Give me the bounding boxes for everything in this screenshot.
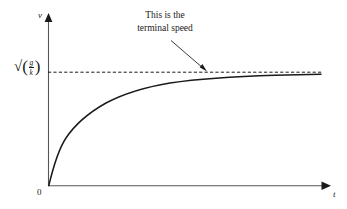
fraction-denominator: k — [29, 67, 34, 76]
terminal-speed-figure: v t 0 √ ( g k ) This is the terminal spe… — [0, 0, 347, 209]
annotation-arrow-line — [171, 41, 204, 69]
fraction-g-over-k: g k — [28, 59, 34, 77]
velocity-curve — [49, 74, 321, 185]
annotation-arrow-head — [200, 64, 207, 72]
velocity-axis-arrowhead — [45, 13, 53, 22]
fraction-numerator: g — [28, 59, 34, 67]
origin-label: 0 — [37, 188, 42, 197]
time-axis-label: t — [333, 190, 336, 199]
radical-sign-icon: √ — [14, 59, 22, 74]
annotation-line-1: This is the — [112, 9, 218, 22]
open-paren: ( — [22, 58, 28, 75]
time-axis-arrowhead — [322, 182, 332, 190]
terminal-speed-annotation: This is the terminal speed — [112, 9, 218, 34]
velocity-axis-label: v — [38, 11, 42, 20]
annotation-line-2: terminal speed — [112, 22, 218, 35]
terminal-speed-value-label: √ ( g k ) — [14, 59, 40, 77]
close-paren: ) — [35, 58, 41, 75]
